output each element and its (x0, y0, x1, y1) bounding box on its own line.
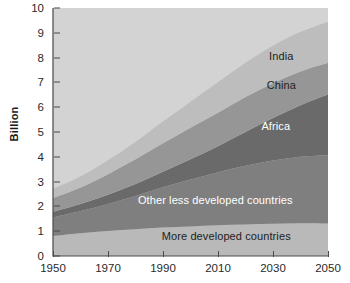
x-tick-label: 1970 (95, 262, 121, 274)
x-tick-mark (53, 251, 54, 257)
y-tick-mark (54, 8, 60, 9)
y-tick-label: 3 (10, 176, 44, 188)
y-tick-mark (54, 231, 60, 232)
y-tick-label: 6 (10, 101, 44, 113)
y-tick-mark (54, 132, 60, 133)
series-label-other-less-developed-countries: Other less developed countries (138, 194, 293, 206)
x-tick-label: 2010 (205, 262, 231, 274)
y-tick-mark (54, 57, 60, 58)
y-tick-label: 7 (10, 76, 44, 88)
x-tick-label: 2050 (315, 262, 341, 274)
stacked-area-chart: Billion 012345678910 1950197019902010203… (0, 0, 350, 283)
series-label-africa: Africa (261, 120, 290, 132)
x-tick-mark (108, 251, 109, 257)
y-tick-mark (54, 256, 60, 257)
y-tick-label: 0 (10, 250, 44, 262)
x-tick-mark (163, 251, 164, 257)
x-tick-mark (328, 251, 329, 257)
x-tick-label: 1950 (40, 262, 66, 274)
y-tick-label: 1 (10, 225, 44, 237)
y-tick-mark (54, 107, 60, 108)
series-label-china: China (267, 79, 296, 91)
series-label-more-developed-countries: More developed countries (162, 230, 291, 242)
y-tick-mark (54, 156, 60, 157)
y-tick-label: 10 (10, 2, 44, 14)
x-tick-label: 1990 (150, 262, 176, 274)
x-tick-label: 2030 (260, 262, 286, 274)
y-tick-mark (54, 32, 60, 33)
y-tick-label: 5 (10, 126, 44, 138)
x-tick-mark (273, 251, 274, 257)
y-tick-label: 9 (10, 27, 44, 39)
y-tick-mark (54, 82, 60, 83)
y-tick-label: 2 (10, 200, 44, 212)
series-label-india: India (269, 50, 293, 62)
y-tick-mark (54, 181, 60, 182)
y-tick-mark (54, 206, 60, 207)
y-tick-label: 4 (10, 151, 44, 163)
y-tick-label: 8 (10, 52, 44, 64)
x-tick-mark (218, 251, 219, 257)
